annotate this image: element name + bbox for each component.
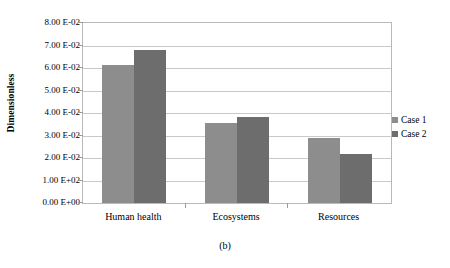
bar-human-health-case-2 — [134, 50, 166, 203]
x-axis-tick-label: Ecosystems — [185, 210, 288, 223]
y-axis-tick-label: 6.00 E-02 — [20, 62, 80, 72]
y-axis-tick-mark — [78, 135, 83, 136]
y-axis-tick-mark — [78, 112, 83, 113]
plot-area — [82, 22, 392, 204]
x-axis-tick-mark — [287, 203, 288, 208]
figure-panel-b: Dimensionless 0.00 E+001.00 E+022.00 E-0… — [0, 0, 450, 268]
legend-label: Case 2 — [401, 129, 427, 140]
bar-resources-case-1 — [308, 138, 340, 203]
y-axis-title-label: Dimensionless — [6, 73, 16, 132]
x-axis-tick-label: Resources — [287, 210, 390, 223]
legend-swatch-icon — [392, 117, 398, 123]
y-axis-tick-label: 1.00 E+02 — [20, 175, 80, 185]
y-axis-tick-mark — [78, 67, 83, 68]
legend-swatch-icon — [392, 131, 398, 137]
bar-resources-case-2 — [340, 154, 372, 204]
bar-ecosystems-case-2 — [237, 117, 269, 203]
y-axis-tick-label-group: 0.00 E+001.00 E+022.00 E-023.00 E-024.00… — [20, 0, 80, 205]
gridline — [83, 46, 391, 47]
y-axis-tick-label: 4.00 E-02 — [20, 107, 80, 117]
y-axis-tick-mark — [78, 22, 83, 23]
legend-item-case-2[interactable]: Case 2 — [392, 127, 450, 141]
figure-caption: (b) — [0, 240, 450, 251]
y-axis-tick-mark — [78, 202, 83, 203]
y-axis-tick-label: 0.00 E+00 — [20, 197, 80, 207]
x-axis-tick-mark — [185, 203, 186, 208]
y-axis-tick-mark — [78, 45, 83, 46]
y-axis-tick-label: 3.00 E-02 — [20, 130, 80, 140]
bar-ecosystems-case-1 — [205, 123, 237, 203]
y-axis-tick-label: 2.00 E-02 — [20, 152, 80, 162]
y-axis-tick-mark — [78, 180, 83, 181]
legend-label: Case 1 — [401, 115, 427, 126]
y-axis-title: Dimensionless — [0, 0, 22, 205]
y-axis-tick-mark — [78, 157, 83, 158]
y-axis-tick-label: 8.00 E-02 — [20, 17, 80, 27]
bar-human-health-case-1 — [102, 65, 134, 203]
y-axis-tick-label: 7.00 E-02 — [20, 40, 80, 50]
y-axis-tick-label: 5.00 E-02 — [20, 85, 80, 95]
legend-item-case-1[interactable]: Case 1 — [392, 113, 450, 127]
x-axis-tick-label: Human health — [82, 210, 185, 223]
y-axis-tick-mark — [78, 90, 83, 91]
legend: Case 1Case 2 — [392, 113, 450, 141]
